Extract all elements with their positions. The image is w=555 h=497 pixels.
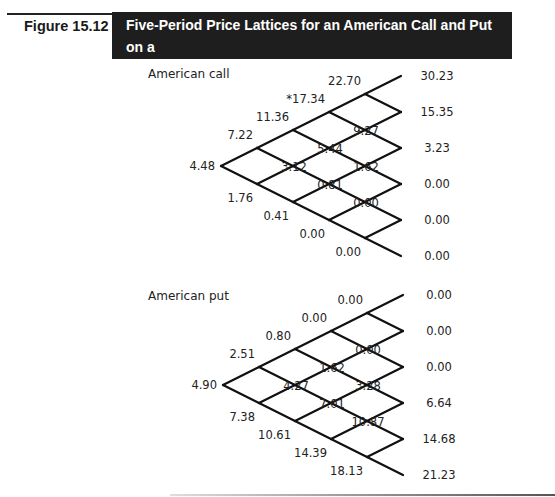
bottom-rule	[170, 494, 555, 496]
put-node-value: 0.80	[265, 329, 291, 343]
lattice-branch	[367, 313, 403, 331]
put-node-value: 1.62	[319, 361, 345, 375]
put-node-value: 10.87	[352, 415, 385, 429]
put-node-value: 4.90	[191, 378, 217, 392]
put-node-value: 0.00	[301, 311, 327, 325]
lattice-branch	[259, 403, 295, 421]
put-node-value: 2.51	[229, 347, 255, 361]
lattice-branch	[367, 295, 403, 313]
lattice-branch	[259, 349, 295, 367]
put-node-value: 0.00	[426, 324, 452, 338]
lattice-branch	[295, 331, 331, 349]
put-node-value: 3.28	[355, 379, 381, 393]
put-node-value: 0.00	[355, 343, 381, 357]
lattice-branch	[295, 421, 331, 439]
lattice-branch	[367, 457, 403, 475]
put-node-value: 6.64	[426, 396, 452, 410]
put-lattice: 4.902.517.380.804.2710.610.001.627.0114.…	[0, 0, 555, 497]
put-node-value: 0.00	[426, 288, 452, 302]
put-node-value: 14.68	[423, 432, 456, 446]
put-node-value: 14.39	[294, 446, 327, 460]
lattice-branch	[331, 439, 367, 457]
put-node-value: 4.27	[283, 379, 309, 393]
lattice-branch	[223, 385, 259, 403]
put-node-value: 0.00	[426, 360, 452, 374]
put-node-value: 18.13	[330, 464, 363, 478]
put-node-value: 7.01	[319, 397, 345, 411]
lattice-branch	[367, 439, 403, 457]
put-node-value: 0.00	[337, 293, 363, 307]
put-node-value: 7.38	[229, 410, 255, 424]
put-node-value: 21.23	[423, 468, 456, 482]
lattice-branch	[331, 313, 367, 331]
put-node-value: 10.61	[258, 428, 291, 442]
lattice-branch	[223, 367, 259, 385]
